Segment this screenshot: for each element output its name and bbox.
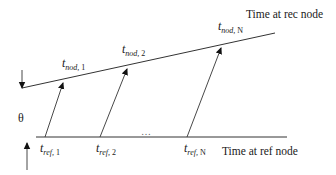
t-nod-1-label: tnod, 1 [62, 56, 85, 72]
ellipsis: … [141, 126, 151, 137]
timing-diagram: θ Time at rec node Time at ref node tnod… [0, 0, 336, 175]
t-ref-1-label: tref, 1 [40, 141, 60, 157]
t-nod-2-label: tnod, 2 [122, 42, 145, 58]
message-arrow-n [187, 48, 221, 137]
ref-axis-label: Time at ref node [222, 145, 298, 157]
message-arrow-2 [100, 69, 127, 137]
t-nod-n-label: tnod, N [218, 19, 243, 35]
offset-theta-label: θ [18, 111, 24, 125]
rec-node-time-line [22, 33, 275, 88]
message-arrow-1 [45, 83, 63, 137]
t-ref-n-label: tref, N [184, 141, 206, 157]
t-ref-2-label: tref, 2 [96, 141, 116, 157]
rec-axis-label: Time at rec node [246, 8, 323, 20]
